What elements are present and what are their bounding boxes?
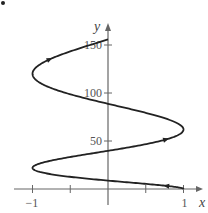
x-axis-label: x: [198, 195, 206, 210]
axis-ticks: −1150100150: [26, 38, 188, 210]
direction-arrow-icon: [46, 56, 54, 63]
x-tick-label: 1: [182, 196, 188, 210]
y-axis: [105, 23, 111, 205]
x-axis-arrow-icon: [196, 186, 203, 192]
y-axis-arrow-icon: [105, 23, 111, 31]
parametric-chart: −1150100150 x y: [0, 0, 208, 213]
direction-arrow-icon: [163, 183, 169, 189]
y-tick-label: 50: [90, 134, 102, 148]
x-tick-label: −1: [26, 196, 39, 210]
y-axis-label: y: [92, 19, 101, 34]
corner-dot: [1, 1, 5, 5]
